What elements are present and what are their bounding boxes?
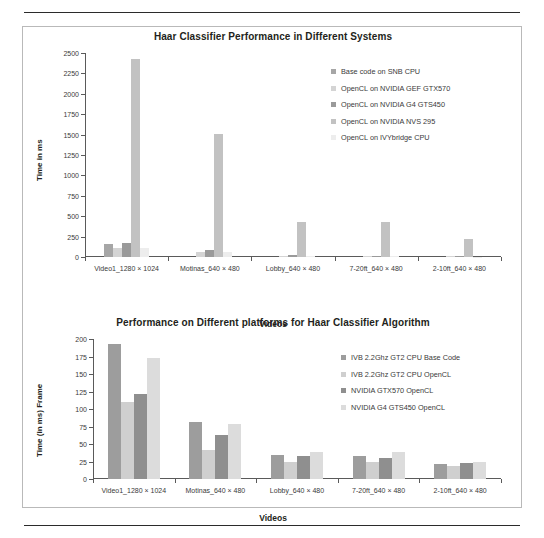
bar	[455, 256, 464, 257]
y-tick-label: 250	[67, 233, 79, 240]
x-category-label: Video1_1280 × 1024	[94, 265, 159, 272]
legend-label: OpenCL on NVIDIA NVS 295	[341, 117, 435, 126]
bar	[196, 252, 205, 257]
y-tick-label: 100	[75, 406, 87, 413]
x-tick-mark	[335, 257, 336, 261]
bar	[279, 256, 288, 257]
bar	[122, 243, 131, 257]
bar	[297, 222, 306, 257]
y-tick-label: 50	[79, 441, 87, 448]
bar	[464, 239, 473, 257]
bar	[379, 458, 392, 479]
x-category-label: Lobby_640 × 480	[266, 265, 320, 272]
legend-item[interactable]: OpenCL on NVIDIA G4 GTS450	[331, 100, 450, 109]
legend-label: NVIDIA GTX570 OpenCL	[351, 386, 433, 395]
bar	[288, 255, 297, 257]
y-tick-label: 1750	[63, 111, 79, 118]
bar	[310, 452, 323, 479]
x-tick-mark	[501, 479, 502, 483]
bar	[473, 462, 486, 480]
chart-platform-performance: Performance on Different platforms for H…	[23, 317, 523, 507]
x-tick-mark	[256, 479, 257, 483]
bar	[460, 463, 473, 479]
bar	[434, 464, 447, 479]
x-tick-mark	[251, 257, 252, 261]
bar	[108, 344, 121, 479]
y-tick-label: 1500	[63, 131, 79, 138]
figure-page: Haar Classifier Performance in Different…	[0, 0, 544, 538]
x-category-label: 2-10ft_640 × 480	[433, 265, 486, 272]
x-category-label: Motinas_640 × 480	[186, 487, 246, 494]
legend-swatch-icon	[341, 355, 346, 360]
x-category-label: 2-10ft_640 × 480	[434, 487, 487, 494]
chart1-title: Haar Classifier Performance in Different…	[23, 31, 523, 42]
bar	[353, 456, 366, 479]
legend-item[interactable]: OpenCL on NVIDIA NVS 295	[331, 117, 450, 126]
bar	[447, 466, 460, 479]
bar	[392, 452, 405, 479]
y-tick-label: 75	[79, 423, 87, 430]
legend-item[interactable]: Base code on SNB CPU	[331, 67, 450, 76]
legend-item[interactable]: IVB 2.2Ghz GT2 CPU Base Code	[341, 353, 460, 362]
bar	[446, 256, 455, 257]
bar	[215, 435, 228, 479]
legend-item[interactable]: NVIDIA GTX570 OpenCL	[341, 386, 460, 395]
legend-swatch-icon	[341, 372, 346, 377]
bar	[104, 244, 113, 257]
bar	[381, 222, 390, 257]
bar	[390, 256, 399, 257]
legend-label: OpenCL on NVIDIA GEF GTX570	[341, 84, 450, 93]
bar	[205, 250, 214, 257]
legend-swatch-icon	[331, 86, 336, 91]
legend-label: IVB 2.2Ghz GT2 CPU Base Code	[351, 353, 460, 362]
legend-item[interactable]: OpenCL on NVIDIA GEF GTX570	[331, 84, 450, 93]
figure-frame: Haar Classifier Performance in Different…	[22, 26, 522, 508]
x-category-label: Motinas_640 × 480	[180, 265, 240, 272]
legend-item[interactable]: OpenCL on IVYbridge CPU	[331, 133, 450, 142]
chart2-x-axis-label: Videos	[23, 513, 523, 523]
x-category-label: 7-20ft_640 × 480	[352, 487, 405, 494]
bar	[271, 455, 284, 480]
bar-group	[256, 339, 338, 479]
bar	[306, 256, 315, 257]
bar	[228, 424, 241, 479]
bar	[134, 394, 147, 479]
bar	[113, 248, 122, 257]
bar	[284, 462, 297, 480]
y-tick-label: 0	[75, 254, 79, 261]
x-tick-mark	[168, 257, 169, 261]
bar	[140, 248, 149, 257]
y-tick-label: 25	[79, 458, 87, 465]
bar	[372, 256, 381, 257]
y-tick-label: 1250	[63, 152, 79, 159]
x-category-label: 7-20ft_640 × 480	[350, 265, 403, 272]
y-tick-label: 175	[75, 353, 87, 360]
chart-haar-classifier-performance: Haar Classifier Performance in Different…	[23, 31, 523, 281]
x-tick-mark	[501, 257, 502, 261]
chart1-y-axis-label: Time in ms	[35, 139, 44, 181]
chart2-title: Performance on Different platforms for H…	[23, 317, 523, 328]
x-tick-mark	[418, 257, 419, 261]
legend-label: NVIDIA G4 GTS450 OpenCL	[351, 403, 445, 412]
x-category-label: Video1_1280 × 1024	[101, 487, 166, 494]
bar-group	[251, 53, 334, 257]
legend-item[interactable]: NVIDIA G4 GTS450 OpenCL	[341, 403, 460, 412]
chart2-legend: IVB 2.2Ghz GT2 CPU Base CodeIVB 2.2Ghz G…	[341, 353, 460, 419]
x-category-label: Lobby_640 × 480	[270, 487, 324, 494]
y-tick-label: 125	[75, 388, 87, 395]
legend-swatch-icon	[331, 102, 336, 107]
x-tick-mark	[93, 479, 94, 483]
legend-item[interactable]: IVB 2.2Ghz GT2 CPU OpenCL	[341, 370, 460, 379]
bar-group	[168, 53, 251, 257]
y-tick-label: 500	[67, 213, 79, 220]
legend-swatch-icon	[341, 388, 346, 393]
y-tick-label: 0	[83, 476, 87, 483]
legend-swatch-icon	[341, 405, 346, 410]
legend-label: OpenCL on NVIDIA G4 GTS450	[341, 100, 445, 109]
bar	[189, 422, 202, 479]
chart2-y-axis-label: Time (in ms) Frame	[35, 384, 44, 457]
legend-swatch-icon	[331, 69, 336, 74]
chart1-legend: Base code on SNB CPUOpenCL on NVIDIA GEF…	[331, 67, 450, 150]
y-tick-label: 1000	[63, 172, 79, 179]
bar	[121, 402, 134, 479]
